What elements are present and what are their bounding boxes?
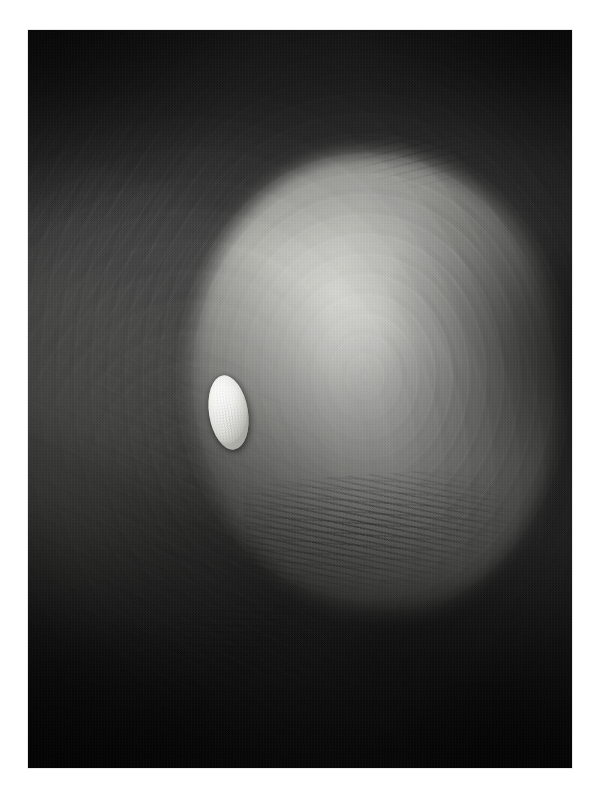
page-canvas [0, 0, 603, 795]
artwork-plate [28, 30, 572, 768]
bottom-edge-shadow [28, 30, 572, 768]
